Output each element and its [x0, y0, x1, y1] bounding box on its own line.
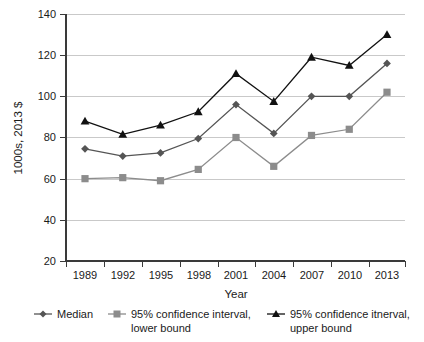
square-marker-icon — [81, 175, 88, 182]
x-tick-label: 1992 — [111, 269, 135, 281]
series-triangle — [81, 30, 392, 138]
diamond-marker-icon — [81, 145, 89, 153]
x-tick-label: 1989 — [73, 269, 97, 281]
legend-label-lower-bound-line2: lower bound — [131, 322, 191, 334]
legend-item-median: Median — [34, 308, 93, 320]
legend-label-upper-bound-line1: 95% confidence itnerval, — [290, 308, 410, 320]
chart-figure: 140 120 100 80 60 40 20 1000s, 2013 $ 19… — [0, 0, 424, 342]
x-tick-marks — [66, 261, 405, 267]
square-marker-icon — [114, 311, 121, 318]
x-tick-label: 2001 — [224, 269, 248, 281]
square-marker-icon — [157, 177, 164, 184]
diamond-marker-icon — [119, 152, 127, 160]
x-axis-title: Year — [224, 288, 247, 300]
x-tick-label: 2004 — [262, 269, 286, 281]
legend-item-upper-bound: 95% confidence itnerval, upper bound — [267, 308, 410, 334]
series-line — [85, 63, 387, 156]
legend-label-upper-bound-line2: upper bound — [290, 322, 352, 334]
y-tick-labels: 140 120 100 80 60 40 20 — [38, 8, 56, 267]
square-marker-icon — [346, 126, 353, 133]
triangle-marker-icon — [232, 69, 241, 77]
y-tick-marks — [60, 14, 66, 261]
square-marker-icon — [383, 89, 390, 96]
square-marker-icon — [119, 174, 126, 181]
triangle-marker-icon — [383, 30, 392, 38]
x-tick-label: 2007 — [300, 269, 324, 281]
triangle-marker-icon — [81, 117, 90, 125]
diamond-marker-icon — [40, 311, 47, 318]
legend-label-median: Median — [57, 308, 93, 320]
x-tick-label: 1998 — [187, 269, 211, 281]
y-tick-label: 60 — [44, 173, 56, 185]
square-marker-icon — [270, 163, 277, 170]
series-layer — [81, 30, 392, 184]
y-tick-label: 80 — [44, 131, 56, 143]
x-tick-label: 1995 — [149, 269, 173, 281]
y-axis-title: 1000s, 2013 $ — [12, 101, 24, 175]
chart-legend: Median 95% confidence interval, lower bo… — [34, 308, 410, 334]
square-marker-icon — [195, 166, 202, 173]
y-tick-label: 140 — [38, 8, 56, 20]
legend-item-lower-bound: 95% confidence interval, lower bound — [108, 308, 251, 334]
series-line — [85, 35, 387, 135]
line-chart: 140 120 100 80 60 40 20 1000s, 2013 $ 19… — [0, 0, 424, 342]
x-tick-label: 2013 — [375, 269, 399, 281]
square-marker-icon — [308, 132, 315, 139]
square-marker-icon — [232, 134, 239, 141]
x-tick-labels: 1989 1992 1995 1998 2001 2004 2007 2010 … — [73, 269, 399, 281]
gridlines — [66, 14, 405, 220]
triangle-marker-icon — [307, 53, 316, 61]
diamond-marker-icon — [157, 149, 165, 157]
legend-label-lower-bound-line1: 95% confidence interval, — [131, 308, 251, 320]
x-tick-label: 2010 — [338, 269, 362, 281]
y-tick-label: 40 — [44, 214, 56, 226]
y-tick-label: 100 — [38, 90, 56, 102]
y-tick-label: 20 — [44, 255, 56, 267]
y-tick-label: 120 — [38, 49, 56, 61]
